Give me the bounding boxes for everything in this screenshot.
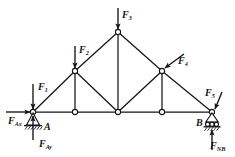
label-f2: F2 [79,45,89,55]
force-subscript: 1 [45,86,48,93]
label-fax: FAx [8,116,22,126]
force-subscript: 3 [129,14,132,21]
force-subscript: Ax [15,120,22,127]
truss-node-apex [115,29,120,34]
point-label-a: A [44,122,51,132]
force-symbol: F [122,9,129,20]
force-subscript: Ay [46,143,52,150]
point-label-b: B [196,118,203,128]
label-fay: FAy [39,139,52,149]
force-symbol: F [39,138,46,149]
label-f1: F1 [38,82,48,92]
truss-svg [0,0,235,157]
force-subscript: 4 [185,60,188,67]
force-subscript: NB [217,145,226,152]
member-diagonal-left [75,71,118,112]
roller-support-b [204,113,221,131]
truss-diagram: F1F2F3F4F5FAxFAyFNBAB [0,0,235,157]
force-symbol: F [205,87,212,98]
force-subscript: 2 [86,49,89,56]
member-diagonal-right [118,71,162,112]
load-arrows [33,8,222,109]
truss-node-bottom-2 [159,109,164,114]
truss-members [33,32,212,112]
force-symbol: F [210,140,217,151]
label-fnb: FNB [210,141,225,151]
truss-node-bottom-mid [115,109,120,114]
force-subscript: 5 [212,92,215,99]
force-symbol: F [178,55,185,66]
force-symbol: F [8,115,15,126]
truss-nodes [30,29,214,114]
force-symbol: F [79,44,86,55]
force-symbol: F [38,81,45,92]
arrow-f5 [215,92,222,109]
label-f4: F4 [178,56,188,66]
label-f5: F5 [205,88,215,98]
truss-node-bottom-1 [72,109,77,114]
truss-node-upper-right [159,68,164,73]
member-right-chord-1 [118,32,162,71]
reaction-arrows [6,112,212,150]
truss-node-upper-left [72,68,77,73]
label-f3: F3 [122,10,132,20]
